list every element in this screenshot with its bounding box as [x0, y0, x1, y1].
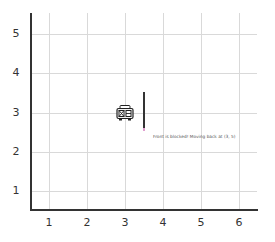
gridline-y-4 — [31, 73, 257, 74]
y-tick-2: 2 — [10, 145, 22, 158]
gridline-y-5 — [31, 34, 257, 35]
y-tick-5: 5 — [10, 27, 22, 40]
x-tick-2: 2 — [77, 216, 97, 229]
y-tick-4: 4 — [10, 66, 22, 79]
x-tick-4: 4 — [153, 216, 173, 229]
gridline-x-6 — [239, 13, 240, 210]
x-tick-6: 6 — [229, 216, 249, 229]
y-tick-1: 1 — [10, 184, 22, 197]
status-message: Front is blocked! Moving back at (3, 5) — [153, 134, 235, 139]
x-tick-1: 1 — [39, 216, 59, 229]
wall-segment — [143, 92, 145, 130]
gridline-x-2 — [87, 13, 88, 210]
y-tick-3: 3 — [10, 106, 22, 119]
wall-end-marker — [143, 128, 145, 131]
gridline-x-1 — [49, 13, 50, 210]
x-axis — [30, 209, 258, 211]
x-tick-5: 5 — [191, 216, 211, 229]
gridline-y-1 — [31, 191, 257, 192]
robot-icon — [116, 105, 134, 121]
y-axis — [30, 13, 32, 211]
gridline-x-5 — [201, 13, 202, 210]
gridline-y-2 — [31, 152, 257, 153]
x-tick-3: 3 — [115, 216, 135, 229]
gridline-x-4 — [163, 13, 164, 210]
